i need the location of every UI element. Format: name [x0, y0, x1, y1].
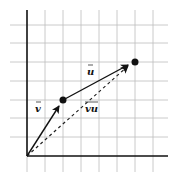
grid [10, 10, 168, 172]
label-v: v [35, 102, 41, 114]
vector-vu-dashed [27, 66, 128, 156]
label-vu: vu [85, 102, 98, 114]
svg-text:v: v [35, 103, 41, 114]
point-v-end [60, 97, 67, 104]
vector-diagram: v u vu [0, 0, 184, 180]
svg-text:u: u [87, 66, 94, 77]
svg-text:vu: vu [85, 103, 98, 114]
point-u-end [132, 59, 139, 66]
label-u: u [87, 65, 94, 77]
axes [27, 10, 168, 156]
